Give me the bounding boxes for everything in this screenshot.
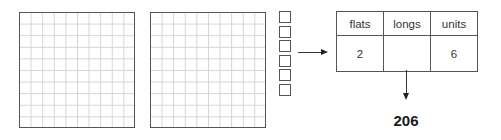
flat-block-1 bbox=[19, 12, 135, 128]
flat-block-2 bbox=[150, 12, 266, 128]
result-number: 206 bbox=[380, 112, 432, 129]
value-longs bbox=[384, 36, 431, 72]
unit-block-6 bbox=[279, 84, 291, 96]
unit-block-2 bbox=[279, 26, 291, 38]
value-flats: 2 bbox=[337, 36, 384, 72]
value-units: 6 bbox=[431, 36, 478, 72]
header-units: units bbox=[431, 12, 478, 36]
unit-block-4 bbox=[279, 55, 291, 67]
unit-block-1 bbox=[279, 11, 291, 23]
place-value-values-row: 2 6 bbox=[337, 36, 478, 72]
header-longs: longs bbox=[384, 12, 431, 36]
unit-block-5 bbox=[279, 69, 291, 81]
place-value-header-row: flats longs units bbox=[337, 12, 478, 36]
unit-block-3 bbox=[279, 40, 291, 52]
place-value-table: flats longs units 2 6 bbox=[336, 11, 478, 72]
header-flats: flats bbox=[337, 12, 384, 36]
